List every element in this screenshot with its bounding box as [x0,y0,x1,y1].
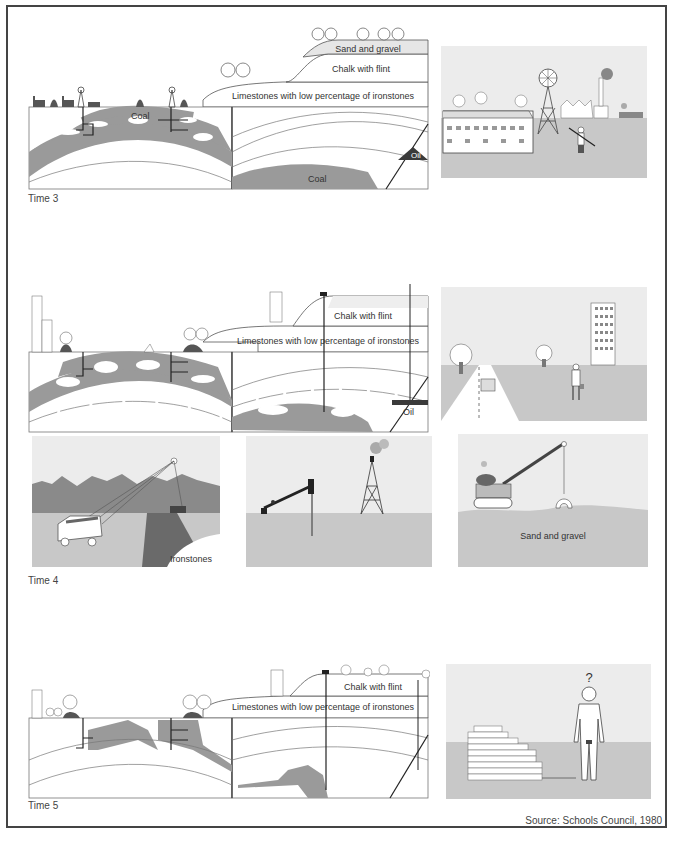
time4-modern-town-scene [441,287,647,421]
oil-label: Oil [411,151,421,160]
limestone-label: Limestones with low percentage of ironst… [232,702,415,712]
gravel-pit-scene: Sand and gravel [458,434,648,567]
coal-label-right: Coal [308,174,327,184]
coal-label-left: Coal [131,111,150,121]
time5-label: Time 5 [28,800,58,811]
time5-cross-section: Chalk with flint Limestones with low per… [28,660,430,800]
time3-cross-section: Sand and gravel Chalk with flint Limesto… [28,12,430,192]
oil-label: Oil [403,407,414,417]
ironstone-quarry-scene: Ironstones [32,436,220,567]
time3-label: Time 3 [28,193,58,204]
sand-gravel-label: Sand and gravel [520,531,586,541]
time4-label: Time 4 [28,575,58,586]
oil-field-scene [246,436,432,567]
limestone-label: Limestones with low percentage of ironst… [237,336,420,346]
time3-mining-town-scene [441,46,647,178]
ironstones-label: Ironstones [170,554,213,564]
time5-exhausted-scene: ? [446,664,651,799]
source-caption: Source: Schools Council, 1980 [525,815,662,826]
sand-gravel-label: Sand and gravel [335,44,401,54]
chalk-flint-label: Chalk with flint [334,311,393,321]
time4-cross-section: Chalk with flint Limestones with low per… [28,282,430,434]
chalk-flint-label: Chalk with flint [332,64,391,74]
question-mark: ? [585,670,592,685]
chalk-flint-label: Chalk with flint [344,682,403,692]
limestone-label: Limestones with low percentage of ironst… [232,91,415,101]
